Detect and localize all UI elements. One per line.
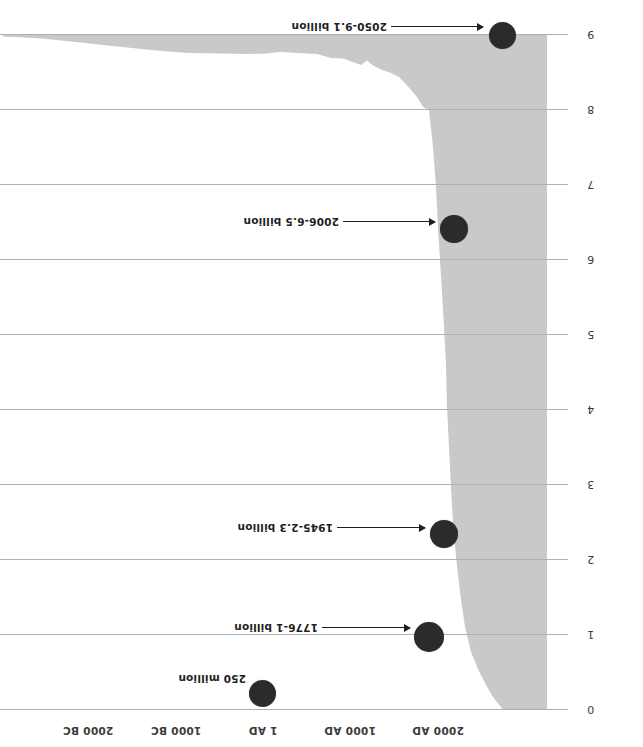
y-axis-tick-8: 8 bbox=[587, 103, 643, 116]
gridline-8 bbox=[0, 109, 568, 110]
gridline-6 bbox=[0, 259, 568, 260]
leader-line-2006 bbox=[343, 222, 435, 223]
y-axis-tick-7: 7 bbox=[587, 178, 643, 191]
x-axis-tick-2000-ad: 2000 AD bbox=[412, 725, 464, 737]
gridline-0 bbox=[0, 709, 568, 710]
y-axis-tick-6: 6 bbox=[587, 253, 643, 266]
population-area-chart: 0 1 2 3 4 5 6 7 8 9 2000 AD 1000 AD 1 AD… bbox=[0, 0, 643, 747]
leader-line-2050 bbox=[391, 27, 483, 28]
annotation-2050-label: 2050-9.1 billion bbox=[291, 21, 387, 33]
gridline-3 bbox=[0, 484, 568, 485]
marker-dot-1776[interactable] bbox=[414, 622, 444, 652]
annotation-1945-label: 1945-2.3 billion bbox=[237, 522, 333, 534]
gridline-1 bbox=[0, 634, 568, 635]
x-axis-tick-2000-bc: 2000 BC bbox=[63, 725, 114, 737]
y-axis-tick-1: 1 bbox=[587, 628, 643, 641]
x-axis-tick-1000-bc: 1000 BC bbox=[151, 725, 202, 737]
marker-dot-2006[interactable] bbox=[440, 215, 468, 243]
x-axis-tick-1000-ad: 1000 AD bbox=[324, 725, 376, 737]
y-axis-tick-2: 2 bbox=[587, 553, 643, 566]
leader-line-1945 bbox=[337, 528, 425, 529]
gridline-7 bbox=[0, 184, 568, 185]
annotation-250-million-label: 250 million bbox=[178, 673, 246, 685]
gridline-2 bbox=[0, 559, 568, 560]
rotated-figure-container: 0 1 2 3 4 5 6 7 8 9 2000 AD 1000 AD 1 AD… bbox=[0, 0, 643, 747]
gridline-9 bbox=[0, 34, 568, 35]
marker-dot-2050[interactable] bbox=[489, 22, 516, 49]
y-axis-tick-4: 4 bbox=[587, 403, 643, 416]
y-axis-tick-5: 5 bbox=[587, 328, 643, 341]
y-axis-tick-3: 3 bbox=[587, 478, 643, 491]
gridline-4 bbox=[0, 409, 568, 410]
annotation-2050: 2050-9.1 billion bbox=[291, 21, 483, 33]
annotation-1945: 1945-2.3 billion bbox=[237, 522, 425, 534]
annotation-2006: 2006-6.5 billion bbox=[243, 216, 435, 228]
gridline-5 bbox=[0, 334, 568, 335]
leader-line-1776 bbox=[322, 628, 410, 629]
area-fill-path bbox=[3, 35, 547, 710]
y-axis-tick-0: 0 bbox=[587, 703, 643, 716]
annotation-1776: 1776-1 billion bbox=[234, 622, 410, 634]
marker-dot-250-million[interactable] bbox=[249, 680, 276, 707]
annotation-250-million: 250 million bbox=[178, 673, 246, 685]
annotation-2006-label: 2006-6.5 billion bbox=[243, 216, 339, 228]
annotation-1776-label: 1776-1 billion bbox=[234, 622, 318, 634]
x-axis-tick-1-ad: 1 AD bbox=[248, 725, 277, 737]
marker-dot-1945[interactable] bbox=[430, 520, 458, 548]
y-axis-tick-9: 9 bbox=[587, 28, 643, 41]
